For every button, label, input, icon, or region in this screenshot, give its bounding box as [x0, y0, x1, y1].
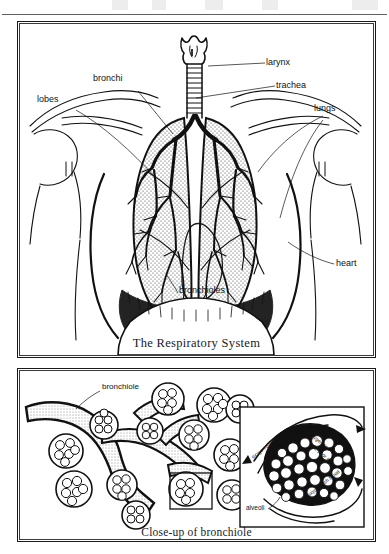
label-bronchiole: bronchiole: [102, 383, 139, 391]
scan-artifact-line: [2, 14, 387, 15]
trachea-structure: [187, 64, 202, 118]
label-bronchi: bronchi: [93, 74, 123, 83]
caption-respiratory-system: The Respiratory System: [18, 336, 375, 351]
scan-artifact-smudge: [112, 0, 128, 10]
diagram-page: larynx trachea lungs bronchi lobes heart…: [0, 0, 389, 554]
panel-bronchiole-closeup: bronchiole alveoli oxygen-poor oxygen-ri…: [17, 368, 376, 542]
label-trachea: trachea: [276, 81, 306, 90]
label-lobes: lobes: [37, 95, 59, 104]
caption-bronchiole-closeup: Close-up of bronchiole: [18, 526, 375, 538]
respiratory-system-illustration: [18, 22, 373, 355]
label-lungs: lungs: [314, 104, 336, 113]
label-alveoli: alveoli: [246, 505, 264, 512]
label-heart: heart: [336, 259, 357, 268]
scan-artifact-smudge: [152, 0, 166, 10]
scan-artifact-smudge: [262, 0, 278, 10]
label-bronchioles: bronchioles: [179, 286, 225, 295]
scan-artifact-smudge: [205, 0, 223, 10]
larynx-structure: [181, 36, 207, 64]
label-larynx: larynx: [266, 58, 290, 67]
scan-artifact-smudge: [352, 0, 378, 10]
panel-respiratory-system: larynx trachea lungs bronchi lobes heart…: [17, 21, 376, 358]
